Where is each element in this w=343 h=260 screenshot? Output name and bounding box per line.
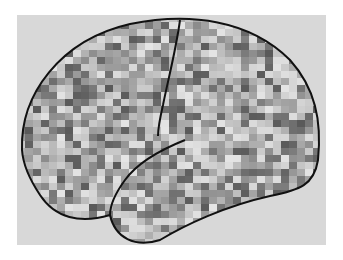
mosaic-cell xyxy=(265,169,273,176)
mosaic-cell xyxy=(201,92,209,99)
mosaic-cell xyxy=(33,155,41,162)
mosaic-cell xyxy=(73,106,81,113)
mosaic-cell xyxy=(201,155,209,162)
mosaic-cell xyxy=(57,120,65,127)
mosaic-cell xyxy=(305,120,313,127)
mosaic-cell xyxy=(121,141,129,148)
mosaic-cell xyxy=(273,113,281,120)
mosaic-cell xyxy=(201,36,209,43)
mosaic-cell xyxy=(185,197,193,204)
mosaic-cell xyxy=(193,190,201,197)
mosaic-cell xyxy=(89,204,97,211)
mosaic-cell xyxy=(257,148,265,155)
mosaic-cell xyxy=(241,99,249,106)
mosaic-cell xyxy=(97,190,105,197)
mosaic-cell xyxy=(57,169,65,176)
mosaic-cell xyxy=(57,204,65,211)
mosaic-cell xyxy=(257,106,265,113)
mosaic-cell xyxy=(57,127,65,134)
mosaic-cell xyxy=(217,127,225,134)
mosaic-cell xyxy=(105,64,113,71)
mosaic-cell xyxy=(169,155,177,162)
mosaic-cell xyxy=(193,92,201,99)
mosaic-cell xyxy=(41,99,49,106)
mosaic-cell xyxy=(201,99,209,106)
mosaic-cell xyxy=(201,71,209,78)
mosaic-cell xyxy=(105,134,113,141)
mosaic-cell xyxy=(305,148,313,155)
mosaic-cell xyxy=(121,218,129,225)
mosaic-cell xyxy=(137,92,145,99)
mosaic-cell xyxy=(193,85,201,92)
mosaic-cell xyxy=(209,155,217,162)
mosaic-cell xyxy=(73,141,81,148)
mosaic-cell xyxy=(73,120,81,127)
mosaic-cell xyxy=(265,64,273,71)
mosaic-cell xyxy=(249,43,257,50)
mosaic-cell xyxy=(121,50,129,57)
mosaic-cell xyxy=(97,127,105,134)
mosaic-cell xyxy=(137,99,145,106)
mosaic-cell xyxy=(161,211,169,218)
mosaic-cell xyxy=(81,211,89,218)
mosaic-cell xyxy=(217,148,225,155)
mosaic-cell xyxy=(185,71,193,78)
mosaic-cell xyxy=(97,141,105,148)
mosaic-cell xyxy=(145,29,153,36)
mosaic-cell xyxy=(105,183,113,190)
mosaic-cell xyxy=(249,106,257,113)
mosaic-cell xyxy=(129,113,137,120)
mosaic-cell xyxy=(257,120,265,127)
mosaic-cell xyxy=(193,78,201,85)
mosaic-cell xyxy=(305,127,313,134)
mosaic-cell xyxy=(137,148,145,155)
mosaic-cell xyxy=(41,190,49,197)
mosaic-cell xyxy=(233,176,241,183)
mosaic-cell xyxy=(185,120,193,127)
mosaic-cell xyxy=(249,36,257,43)
mosaic-cell xyxy=(153,50,161,57)
mosaic-cell xyxy=(121,57,129,64)
mosaic-cell xyxy=(225,183,233,190)
mosaic-cell xyxy=(217,141,225,148)
mosaic-cell xyxy=(129,92,137,99)
mosaic-cell xyxy=(113,64,121,71)
mosaic-cell xyxy=(161,162,169,169)
mosaic-cell xyxy=(193,106,201,113)
mosaic-cell xyxy=(177,64,185,71)
mosaic-cell xyxy=(113,71,121,78)
mosaic-cell xyxy=(233,71,241,78)
mosaic-cell xyxy=(161,22,169,29)
mosaic-cell xyxy=(185,99,193,106)
mosaic-cell xyxy=(97,169,105,176)
mosaic-cell xyxy=(177,85,185,92)
mosaic-cell xyxy=(121,225,129,232)
mosaic-cell xyxy=(209,36,217,43)
mosaic-cell xyxy=(185,50,193,57)
mosaic-cell xyxy=(145,162,153,169)
mosaic-cell xyxy=(273,85,281,92)
mosaic-cell xyxy=(273,106,281,113)
mosaic-cell xyxy=(265,127,273,134)
mosaic-cell xyxy=(241,85,249,92)
mosaic-cell xyxy=(153,197,161,204)
mosaic-cell xyxy=(177,197,185,204)
mosaic-cell xyxy=(145,127,153,134)
mosaic-cell xyxy=(257,155,265,162)
mosaic-cell xyxy=(193,29,201,36)
mosaic-cell xyxy=(169,92,177,99)
mosaic-cell xyxy=(281,113,289,120)
mosaic-cell xyxy=(225,71,233,78)
mosaic-cell xyxy=(193,176,201,183)
mosaic-cell xyxy=(257,183,265,190)
mosaic-cell xyxy=(201,169,209,176)
mosaic-cell xyxy=(33,176,41,183)
mosaic-cell xyxy=(201,134,209,141)
mosaic-cell xyxy=(177,50,185,57)
mosaic-cell xyxy=(105,57,113,64)
mosaic-cell xyxy=(233,134,241,141)
mosaic-cell xyxy=(201,120,209,127)
mosaic-cell xyxy=(73,134,81,141)
mosaic-cell xyxy=(121,211,129,218)
mosaic-cell xyxy=(161,218,169,225)
